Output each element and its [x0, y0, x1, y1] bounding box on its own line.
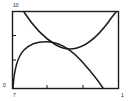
x-axis-max-label: 1 [121, 93, 124, 98]
plot-figure: 10 0 7 1 [0, 0, 129, 101]
plot-frame [13, 12, 119, 89]
x-axis-min-label: 7 [13, 93, 16, 98]
y-axis-min-label: 0 [3, 83, 6, 88]
y-axis-max-label: 10 [13, 3, 19, 8]
plot-canvas [0, 0, 129, 101]
